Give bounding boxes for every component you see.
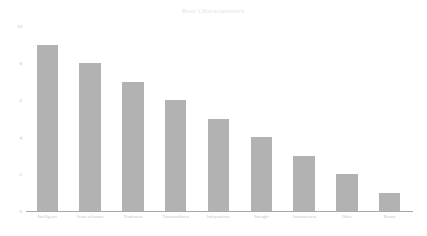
bar-slot — [336, 26, 357, 211]
x-axis-category-label: Intelligence — [37, 215, 57, 219]
x-axis-category-label: Attractiveness — [292, 215, 316, 219]
plot-area — [26, 26, 411, 211]
x-axis-category-label: Other — [342, 215, 352, 219]
x-axis-category-label: Beauty — [384, 215, 396, 219]
bar-slot — [379, 26, 400, 211]
bar[interactable] — [208, 119, 229, 212]
x-axis-category-label: Trustworthiness — [162, 215, 189, 219]
x-axis-category-label: Strength — [254, 215, 268, 219]
y-axis: 1086420 — [0, 0, 22, 236]
bar-slot — [208, 26, 229, 211]
bar-slot — [37, 26, 58, 211]
y-axis-tick-label: 10 — [17, 24, 22, 29]
x-axis-category-label: Sense of humor — [77, 215, 103, 219]
y-axis-tick-label: 2 — [20, 172, 23, 177]
bar-chart: Best Characteristics 1086420 Intelligenc… — [0, 0, 427, 236]
bar-slot — [122, 26, 143, 211]
bar-slot — [79, 26, 100, 211]
x-axis-category-label: Tenderness — [124, 215, 143, 219]
y-axis-tick-label: 8 — [20, 61, 23, 66]
y-axis-tick-label: 4 — [20, 135, 23, 140]
y-axis-tick-label: 6 — [20, 98, 23, 103]
bar[interactable] — [293, 156, 314, 212]
chart-title: Best Characteristics — [0, 7, 427, 15]
bar[interactable] — [122, 82, 143, 212]
x-axis-line — [26, 211, 413, 212]
bar[interactable] — [165, 100, 186, 211]
bar-slot — [165, 26, 186, 211]
bar[interactable] — [379, 193, 400, 212]
bar[interactable] — [251, 137, 272, 211]
y-axis-tick-label: 0 — [20, 209, 23, 214]
bar[interactable] — [37, 45, 58, 212]
bar-slot — [251, 26, 272, 211]
bar[interactable] — [336, 174, 357, 211]
x-axis-category-label: Independence — [207, 215, 230, 219]
bar-slot — [293, 26, 314, 211]
bar[interactable] — [79, 63, 100, 211]
